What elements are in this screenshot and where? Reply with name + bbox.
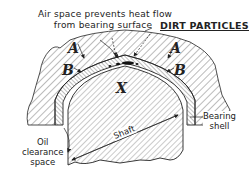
caption-line-2: from bearing surface (38, 20, 168, 31)
oil-clearance-label-line-3: space (22, 157, 63, 167)
label-b-left: B (62, 62, 74, 78)
label-a-left: A (68, 40, 79, 56)
caption-text: Air space prevents heat flow from bearin… (38, 9, 168, 31)
bearing-shell-label-line-2: shell (203, 121, 236, 131)
label-b-right: B (174, 62, 186, 78)
oil-clearance-label-line-1: Oil (22, 137, 63, 147)
bearing-shell-label: Bearing shell (203, 111, 236, 131)
caption-line-1: Air space prevents heat flow (38, 9, 168, 20)
dirt-particles-label: DIRT PARTICLES (160, 20, 249, 31)
oil-clearance-label: Oil clearance space (22, 137, 63, 167)
label-a-right: A (170, 40, 181, 56)
label-x: X (116, 80, 127, 96)
bearing-shell-label-line-1: Bearing (203, 111, 236, 121)
oil-clearance-label-line-2: clearance (22, 147, 63, 157)
